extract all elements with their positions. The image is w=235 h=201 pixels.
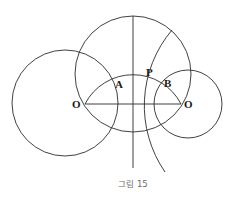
label-P: P (146, 66, 153, 78)
label-O-left: O (72, 98, 81, 110)
label-O-right: O (184, 98, 193, 110)
label-B: B (164, 77, 172, 89)
left-circle (12, 50, 118, 156)
geometry-diagram: O O A P B 그림 15 (0, 0, 235, 201)
figure-caption: 그림 15 (118, 179, 148, 189)
arc-through-P (144, 30, 172, 172)
label-A: A (115, 78, 123, 90)
